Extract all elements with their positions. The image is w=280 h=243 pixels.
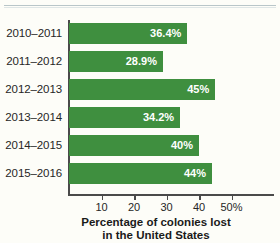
bar-value-label: 45% [187,79,209,100]
bar: 45% [69,79,215,100]
bar: 44% [69,163,212,184]
x-axis-title-line-1: Percentage of colonies lost [40,216,272,229]
category-label: 2015–2016 [0,163,62,184]
tick-mark [199,194,201,200]
bar: 28.9% [69,51,163,72]
bar-value-label: 44% [184,163,206,184]
tick-label: 50% [220,201,242,213]
bar-row: 2010–201136.4% [0,23,280,51]
bar: 40% [69,135,199,156]
bar: 36.4% [69,23,187,44]
tick-label: 10 [95,201,107,213]
tick-mark [167,194,169,200]
bar-value-label: 34.2% [143,107,174,128]
bar-row: 2015–201644% [0,163,280,191]
bar-row: 2013–201434.2% [0,107,280,135]
bar-row: 2011–201228.9% [0,51,280,79]
category-label: 2010–2011 [0,23,62,44]
bar-value-label: 36.4% [150,23,181,44]
x-axis-title: Percentage of colonies lost in the Unite… [40,216,272,242]
tick-label: 20 [128,201,140,213]
x-axis-ticks: 1020304050% [0,194,280,214]
plot-area: 2010–201136.4%2011–201228.9%2012–201345%… [0,0,280,243]
tick-label: 40 [193,201,205,213]
bar-row: 2014–201540% [0,135,280,163]
category-label: 2012–2013 [0,79,62,100]
x-axis-title-line-2: in the United States [40,229,272,242]
bar-rows: 2010–201136.4%2011–201228.9%2012–201345%… [0,23,280,191]
bar-chart: 2010–201136.4%2011–201228.9%2012–201345%… [0,0,280,243]
bar-row: 2012–201345% [0,79,280,107]
category-label: 2014–2015 [0,135,62,156]
tick-mark [102,194,104,200]
tick-mark [232,194,234,200]
bar: 34.2% [69,107,180,128]
category-label: 2011–2012 [0,51,62,72]
tick-label: 30 [160,201,172,213]
category-label: 2013–2014 [0,107,62,128]
bar-value-label: 40% [171,135,193,156]
tick-mark [134,194,136,200]
bar-value-label: 28.9% [126,51,157,72]
